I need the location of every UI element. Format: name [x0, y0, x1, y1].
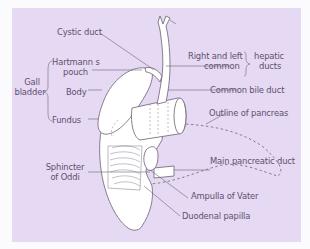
biliary-anatomy-illustration	[0, 0, 310, 249]
common-bile-duct	[157, 16, 170, 104]
label-hepatic: hepatic	[254, 51, 284, 61]
label-bladder: bladder	[12, 87, 48, 97]
label-sphincter: Sphincter	[40, 162, 90, 172]
label-gall: Gall	[18, 77, 46, 87]
label-right-and-left: Right and left	[188, 51, 243, 61]
label-of-oddi: of Oddi	[44, 172, 86, 182]
cylinder-end	[174, 98, 186, 134]
label-outline-of-pancreas: Outline of pancreas	[209, 108, 288, 118]
label-body: Body	[66, 87, 87, 97]
label-hartmann-line1: Hartmann s	[52, 57, 100, 67]
label-fundus: Fundus	[52, 115, 81, 125]
label-duodenal-papilla: Duodenal papilla	[182, 211, 250, 221]
label-common: common	[204, 61, 240, 71]
label-ampulla-of-vater: Ampulla of Vater	[191, 191, 258, 201]
pancreatic-duct-stub	[154, 166, 174, 178]
label-hartmann-line2: pouch	[63, 67, 88, 77]
label-main-pancreatic-duct: Main pancreatic duct	[210, 156, 295, 166]
ampulla	[144, 147, 158, 171]
label-common-bile-duct: Common bile duct	[210, 85, 284, 95]
label-cystic-duct: Cystic duct	[57, 27, 102, 37]
label-ducts: ducts	[259, 61, 281, 71]
